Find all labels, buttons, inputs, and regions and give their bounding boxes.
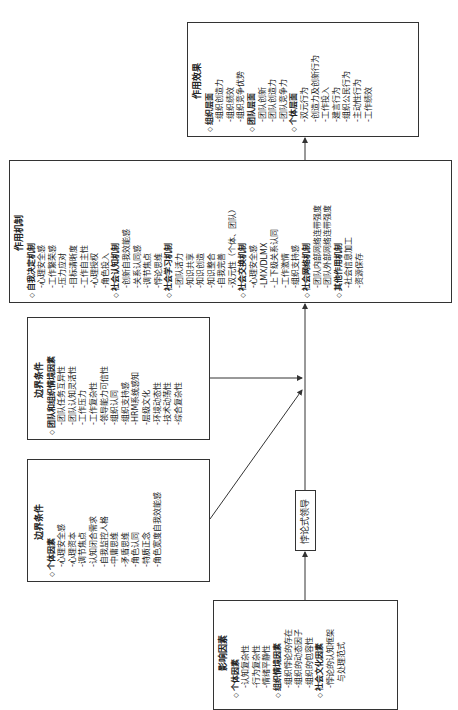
- list-item: 工作自主性: [80, 167, 91, 298]
- list-item: 团队任务互异性: [57, 324, 68, 435]
- list-item: 工作投入: [321, 29, 332, 132]
- influence-section-individual: ◇个体因素: [231, 607, 242, 698]
- list-item: 特质正念: [142, 466, 153, 577]
- arrow-individual-boundary: [210, 390, 302, 519]
- list-item: 知识整合: [207, 167, 218, 298]
- list-item: 中庸思维: [110, 466, 121, 577]
- list-item: 矛盾思维: [121, 466, 132, 577]
- list-item: 角色投入: [101, 167, 112, 298]
- list-item: 团队内部网络连带强度: [313, 167, 324, 298]
- effects-box: 作用效果 ◇组织层面 组织创造力 组织绩效 组织竞争优势 ◇团队层面 团队创新 …: [187, 22, 419, 137]
- list-item: 心理安全感: [57, 466, 68, 577]
- list-item: 角色认同: [131, 466, 142, 577]
- list-item: 角色宽度自我效能感: [153, 466, 164, 577]
- effects-title: 作用效果: [192, 29, 203, 132]
- list-item: 调节焦点: [143, 167, 154, 298]
- list-item: 团队认知灵活性: [68, 324, 79, 435]
- list-item: 组织支持感: [291, 167, 302, 298]
- effects-section-individual: ◇个体层面: [289, 29, 300, 132]
- mechanism-section-social-exchange: ◇社会交换机制: [238, 167, 249, 298]
- boundary-team-box: 边界条件 ◇团队和组织情境因素 团队任务互异性 团队认知灵活性 工作压力 工作复…: [27, 317, 210, 440]
- list-item: 工作复杂性: [89, 324, 100, 435]
- list-item: 心理资本: [68, 466, 79, 577]
- list-item: 工作繁荣感: [48, 167, 59, 298]
- list-item: 团队外部网络连带强度: [323, 167, 334, 298]
- paradoxical-leadership-box: 悖论式领导: [295, 490, 316, 551]
- list-item: 层级文化: [142, 324, 153, 435]
- list-item: 目标清晰度: [69, 167, 80, 298]
- list-item: 关系认同感: [133, 167, 144, 298]
- list-item: 自我监控人格: [100, 466, 111, 577]
- list-item: 组织的包容性: [305, 607, 316, 698]
- mechanism-section-social-network: ◇社会网络机制: [302, 167, 313, 298]
- list-item: 团队创新: [258, 29, 269, 132]
- list-item: 知识共享: [186, 167, 197, 298]
- list-item: 资源保存: [355, 167, 366, 298]
- list-item: 领导能力可信性: [100, 324, 111, 435]
- effects-section-team: ◇团队层面: [247, 29, 258, 132]
- mechanism-section-social-cognitive: ◇社会认知机制: [111, 167, 122, 298]
- list-item: 工作激情: [281, 167, 292, 298]
- list-item: 环境动态性: [153, 324, 164, 435]
- influence-section-culture: ◇社会文化因素: [315, 607, 326, 698]
- list-item: 团队竞争力: [279, 29, 290, 132]
- list-item: 团队活力: [175, 167, 186, 298]
- mechanism-title: 作用机制: [14, 167, 25, 298]
- list-item: 自我完善: [217, 167, 228, 298]
- list-item: 行为复杂性: [252, 607, 263, 698]
- list-item: 心理安全感: [37, 167, 48, 298]
- mechanism-section-social-learning: ◇社会学习机制: [164, 167, 175, 298]
- list-item: 组织支持感: [121, 324, 132, 435]
- boundary-individual-section: ◇个体因素: [47, 466, 58, 577]
- list-item: 建言行为: [332, 29, 343, 132]
- influence-box: 影响因素 ◇个体因素 认知复杂性 行为复杂性 情绪平静性 ◇组织情境因素 组织悖…: [213, 600, 398, 710]
- boundary-team-section: ◇团队和组织情境因素: [47, 324, 58, 435]
- list-item: 心理授权: [90, 167, 101, 298]
- list-item: 知识创造: [196, 167, 207, 298]
- list-item: HRM系统感知: [131, 324, 142, 435]
- list-item: 悖论思维: [154, 167, 165, 298]
- list-item: 创造力及创新行为: [311, 29, 322, 132]
- effects-section-org: ◇组织层面: [205, 29, 216, 132]
- mechanism-box: 作用机制 ◇自我决定机制 心理安全感 工作繁荣感 压力应对 目标清晰度 工作自主…: [9, 160, 452, 303]
- mechanism-section-self-determination: ◇自我决定机制: [27, 167, 38, 298]
- list-item: 认知复杂性: [241, 607, 252, 698]
- list-item: 组织绩效: [226, 29, 237, 132]
- list-item: 双元行为: [300, 29, 311, 132]
- list-item: 社会信息加工: [344, 167, 355, 298]
- boundary-individual-title: 边界条件: [34, 466, 45, 577]
- influence-title: 影响因素: [218, 607, 229, 698]
- list-item: 技术动荡性: [163, 324, 174, 435]
- list-item: 悖论的认知框架: [326, 607, 337, 698]
- boundary-team-title: 边界条件: [34, 324, 45, 435]
- list-item: 调节焦点: [78, 466, 89, 577]
- list-item: 上下级关系认同: [270, 167, 281, 298]
- influence-section-org: ◇组织情境因素: [273, 607, 284, 698]
- list-item: 综合复杂性: [174, 324, 185, 435]
- list-item: 认知闭合需求: [89, 466, 100, 577]
- list-item: 双元性（个体、团队）: [228, 167, 239, 298]
- list-item: 工作压力: [78, 324, 89, 435]
- list-item: LMX/DLMX: [260, 167, 271, 298]
- paradoxical-leadership-label: 悖论式领导: [296, 491, 314, 552]
- list-item: 组织的动态因子: [294, 607, 305, 698]
- list-item: 组织认同: [110, 324, 121, 435]
- list-item: 压力应对: [58, 167, 69, 298]
- list-item: 心理安全感: [249, 167, 260, 298]
- list-item: 组织创造力: [215, 29, 226, 132]
- list-item: 组织悖论的存在: [284, 607, 295, 698]
- list-item: 组织竞争优势: [236, 29, 247, 132]
- list-item: 组织公民行为: [342, 29, 353, 132]
- list-item: 创新自我效能感: [122, 167, 133, 298]
- list-item: 主动性行为: [353, 29, 364, 132]
- boundary-individual-box: 边界条件 ◇个体因素 心理安全感 心理资本 调节焦点 认知闭合需求 自我监控人格…: [27, 459, 210, 582]
- list-item: 与处理范式: [337, 607, 348, 698]
- mechanism-section-other: ◇其他作用机制: [334, 167, 345, 298]
- list-item: 工作绩效: [364, 29, 375, 132]
- list-item: 情绪平静性: [262, 607, 273, 698]
- list-item: 团队创造力: [268, 29, 279, 132]
